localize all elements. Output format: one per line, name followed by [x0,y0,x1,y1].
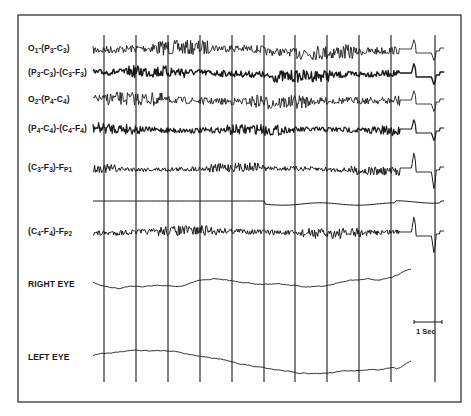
trace-left-eye [93,350,411,374]
channel-label-right-eye: RIGHT EYE [28,279,75,289]
channel-label-c3f3-fp1: (C3-F3)-FP1 [28,162,72,173]
channel-label-left-eye: LEFT EYE [28,352,69,362]
channel-label-c4f4-fp2: (C4-F4)-FP2 [28,226,72,237]
channel-label-o2: O2-(P4-C4) [28,94,70,105]
channel-label-o1: O1-(P3-C3) [28,43,70,54]
trace-right-eye [93,269,411,289]
eeg-figure: O1-(P3-C3) (P3-C3)-(C3-F3) O2-(P4-C4) (P… [0,0,471,416]
scale-bar-label: 1 Sec [416,327,436,336]
eeg-plot [0,0,471,416]
channel-label-p3c3-c3f3: (P3-C3)-(C3-F3) [28,67,87,78]
channel-label-p4c4-c4f4: (P4-C4)-(C4-F4) [28,123,87,134]
